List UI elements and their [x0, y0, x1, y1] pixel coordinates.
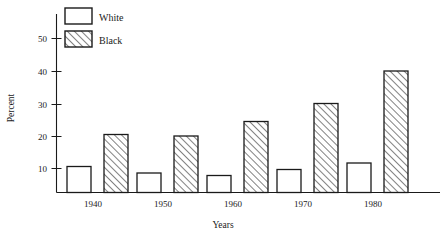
y-tick-label-20: 20: [38, 132, 48, 142]
legend-swatch-black-icon: [65, 31, 92, 47]
bar-black-1950: [174, 136, 198, 193]
chart-svg: 50 40 30 20 10 Percent 1940 1950 1960 19…: [0, 0, 446, 236]
bar-chart: 50 40 30 20 10 Percent 1940 1950 1960 19…: [0, 0, 446, 236]
y-tick-label-40: 40: [38, 67, 48, 77]
legend-label-black: Black: [99, 35, 122, 46]
bar-white-1940: [67, 167, 91, 193]
y-tick-label-50: 50: [38, 34, 48, 44]
y-tick-label-10: 10: [38, 164, 48, 174]
x-tick-label-1940: 1940: [84, 199, 103, 209]
bar-black-1960: [244, 122, 268, 193]
x-axis-title: Years: [212, 220, 234, 230]
x-tick-label-1950: 1950: [154, 199, 173, 209]
bar-black-1970: [314, 104, 338, 193]
x-tick-label-1960: 1960: [224, 199, 243, 209]
bar-black-1980: [384, 71, 408, 193]
bar-black-1940: [104, 135, 128, 193]
bar-white-1950: [137, 173, 161, 193]
x-tick-label-1970: 1970: [294, 199, 313, 209]
bar-white-1960: [207, 176, 231, 193]
y-axis-title: Percent: [6, 93, 16, 122]
x-tick-label-1980: 1980: [364, 199, 383, 209]
legend-label-white: White: [99, 12, 124, 23]
legend-swatch-white-icon: [65, 8, 92, 24]
bar-white-1970: [277, 170, 301, 193]
bar-white-1980: [347, 163, 371, 193]
y-tick-label-30: 30: [38, 100, 48, 110]
